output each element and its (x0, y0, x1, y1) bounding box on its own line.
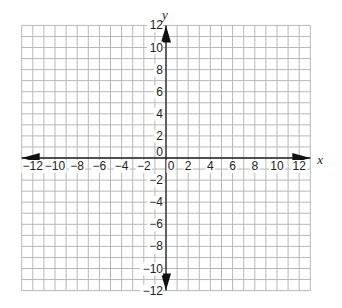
y-tick-label: 10 (150, 41, 164, 55)
y-tick-label: −8 (149, 239, 163, 253)
x-tick-label: −4 (115, 159, 129, 173)
x-tick-label: −2 (137, 159, 151, 173)
y-tick-label: −4 (149, 195, 163, 209)
y-axis-title: y (160, 7, 168, 22)
y-tick-label: 2 (156, 129, 163, 143)
y-tick-label: −12 (143, 284, 164, 298)
axes (22, 25, 311, 290)
y-tick-label: −6 (149, 217, 163, 231)
x-tick-label: −6 (93, 159, 107, 173)
y-tick-label: −2 (149, 173, 163, 187)
x-tick-label: 12 (293, 159, 307, 173)
x-tick-label: 8 (251, 159, 258, 173)
x-tick-label: −12 (23, 159, 44, 173)
y-tick-label: −10 (143, 262, 164, 276)
x-tick-label: 4 (207, 159, 214, 173)
y-tick-label: 6 (156, 85, 163, 99)
x-axis-title: x (316, 152, 323, 167)
x-tick-label: −10 (45, 159, 66, 173)
y-tick-label: 8 (156, 63, 163, 77)
x-tick-label: 0 (168, 159, 175, 173)
x-tick-label: 6 (229, 159, 236, 173)
coordinate-plane: −12−10−8−6−4−2024681012121086420−2−4−6−8… (0, 0, 342, 308)
x-tick-label: −8 (70, 159, 84, 173)
y-tick-label: 4 (156, 107, 163, 121)
x-tick-label: 2 (185, 159, 192, 173)
x-tick-label: 10 (270, 159, 284, 173)
y-tick-label: 0 (156, 145, 163, 159)
